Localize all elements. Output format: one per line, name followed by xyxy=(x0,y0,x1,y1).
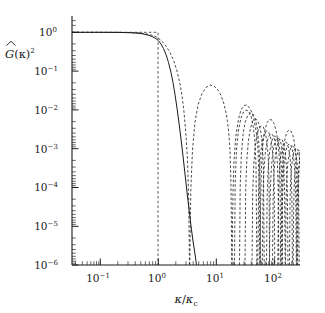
log-log-plot: 100 10−1 10−2 10−3 10−4 10−5 10−6 10−1 1… xyxy=(0,0,325,313)
svg-text:10−6: 10−6 xyxy=(34,259,58,271)
y-tick-label-5: 10 xyxy=(34,220,47,232)
svg-text:G(κ)2: G(κ)2 xyxy=(5,47,35,61)
hat-accent-icon xyxy=(7,41,16,45)
y-tick-exp-4: −4 xyxy=(48,181,59,189)
y-tick-label-1: 10 xyxy=(34,65,47,77)
svg-text:10−1: 10−1 xyxy=(86,272,110,284)
y-tick-label-4: 10 xyxy=(34,181,47,193)
y-tick-exp-5: −5 xyxy=(48,220,58,228)
y-tick-exp-6: −6 xyxy=(48,259,59,267)
y-tick-exp-0: 0 xyxy=(52,26,56,34)
svg-text:10−4: 10−4 xyxy=(34,181,58,193)
y-tick-label-3: 10 xyxy=(34,143,47,155)
x-tick-exp-0: −1 xyxy=(100,272,110,280)
figure-container: 100 10−1 10−2 10−3 10−4 10−5 10−6 10−1 1… xyxy=(0,0,325,313)
svg-text:100: 100 xyxy=(39,26,57,38)
x-tick-label-1: 10 xyxy=(148,272,161,284)
svg-text:10−2: 10−2 xyxy=(34,104,58,116)
x-axis-title-den-sub: c xyxy=(193,299,197,308)
x-tick-exp-3: 2 xyxy=(277,272,281,280)
y-tick-label-2: 10 xyxy=(34,104,47,116)
y-tick-exp-3: −3 xyxy=(48,143,58,151)
y-axis-title-pow: 2 xyxy=(30,47,34,55)
y-axis-title-G: G xyxy=(5,47,14,61)
y-axis-tick-labels: 100 10−1 10−2 10−3 10−4 10−5 10−6 xyxy=(34,26,58,271)
x-axis-tick-labels: 10−1 100 101 102 xyxy=(86,272,282,284)
plot-background xyxy=(72,16,300,265)
x-tick-label-3: 10 xyxy=(264,272,277,284)
svg-text:10−1: 10−1 xyxy=(34,65,58,77)
x-tick-label-0: 10 xyxy=(86,272,99,284)
svg-text:101: 101 xyxy=(206,272,224,284)
y-axis-title: G(κ)2 xyxy=(5,41,35,61)
x-tick-exp-2: 1 xyxy=(219,272,223,280)
y-axis-title-arg: (κ) xyxy=(14,47,30,61)
svg-text:100: 100 xyxy=(148,272,166,284)
y-tick-exp-2: −2 xyxy=(48,104,58,112)
y-tick-label-6: 10 xyxy=(34,259,47,271)
svg-text:10−5: 10−5 xyxy=(34,220,58,232)
x-tick-label-2: 10 xyxy=(206,272,219,284)
y-tick-exp-1: −1 xyxy=(48,65,58,73)
svg-text:10−3: 10−3 xyxy=(34,143,58,155)
svg-text:102: 102 xyxy=(264,272,282,284)
x-tick-exp-1: 0 xyxy=(161,272,165,280)
x-axis-title: κ/κc xyxy=(173,292,197,308)
y-tick-label-0: 10 xyxy=(39,26,52,38)
